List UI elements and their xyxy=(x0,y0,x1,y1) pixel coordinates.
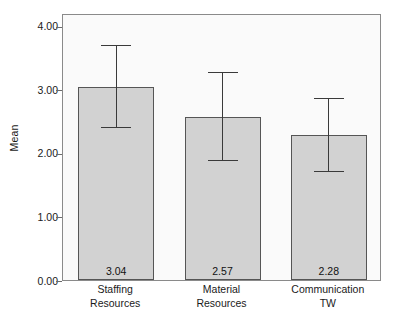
y-tick-mark xyxy=(56,217,62,218)
y-tick-mark xyxy=(56,90,62,91)
y-tick-mark xyxy=(56,281,62,282)
error-bar-cap-upper xyxy=(101,45,131,46)
error-bar-cap-lower xyxy=(208,160,238,161)
x-axis-labels: StaffingResourcesMaterialResourcesCommun… xyxy=(62,283,381,317)
x-category-label: MaterialResources xyxy=(168,283,274,310)
bar-value-label: 2.57 xyxy=(186,266,260,277)
plot-surface: 3.042.572.28 xyxy=(63,15,380,280)
error-bar-stem xyxy=(222,73,223,161)
y-tick-mark xyxy=(56,27,62,28)
error-bar-stem xyxy=(328,99,329,172)
y-axis-ticks: 0.001.002.003.004.00 xyxy=(12,0,58,333)
error-bar-cap-upper xyxy=(314,98,344,99)
y-tick-label: 2.00 xyxy=(16,148,58,159)
y-tick-label: 3.00 xyxy=(16,85,58,96)
error-bar-cap-lower xyxy=(314,171,344,172)
error-bar-cap-upper xyxy=(208,72,238,73)
x-category-label-line: Communication xyxy=(275,283,381,297)
plot-area: 3.042.572.28 xyxy=(62,14,381,281)
x-category-label: CommunicationTW xyxy=(275,283,381,310)
y-tick-label: 0.00 xyxy=(16,276,58,287)
bar-value-label: 3.04 xyxy=(79,266,153,277)
x-category-label-line: Resources xyxy=(168,297,274,311)
error-bar-cap-lower xyxy=(101,127,131,128)
bar-chart: Mean 0.001.002.003.004.00 3.042.572.28 S… xyxy=(0,0,398,333)
error-bar-stem xyxy=(116,46,117,128)
x-category-label-line: TW xyxy=(275,297,381,311)
y-tick-mark xyxy=(56,154,62,155)
x-category-label-line: Staffing xyxy=(62,283,168,297)
figure-caption xyxy=(0,322,398,333)
bar-value-label: 2.28 xyxy=(292,266,366,277)
y-tick-label: 1.00 xyxy=(16,212,58,223)
x-category-label-line: Material xyxy=(168,283,274,297)
x-category-label: StaffingResources xyxy=(62,283,168,310)
y-tick-label: 4.00 xyxy=(16,21,58,32)
x-category-label-line: Resources xyxy=(62,297,168,311)
